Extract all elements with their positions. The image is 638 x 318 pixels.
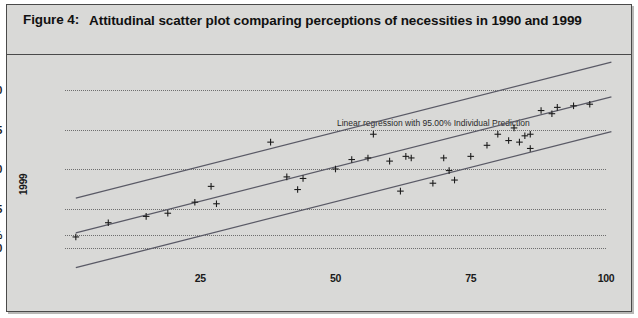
y-tick-label: 50 bbox=[0, 163, 2, 175]
scatter-point bbox=[397, 188, 404, 195]
x-tick-label: 50 bbox=[330, 272, 341, 284]
scatter-point bbox=[527, 145, 534, 152]
scatter-point bbox=[511, 125, 518, 132]
scatter-point bbox=[365, 155, 372, 162]
scatter-point bbox=[538, 107, 545, 114]
scatter-point bbox=[294, 186, 301, 193]
figure-title-wrap: Figure 4: Attitudinal scatter plot compa… bbox=[23, 12, 621, 30]
y-tick-label: 0 bbox=[0, 242, 2, 254]
prediction-lower-line bbox=[76, 132, 612, 268]
chart-plot-region: Linear regression with 95.00% Individual… bbox=[7, 55, 633, 312]
x-tick-label: 25 bbox=[195, 272, 206, 284]
scatter-point bbox=[403, 153, 410, 160]
scatter-point bbox=[451, 177, 458, 184]
scatter-svg bbox=[65, 90, 606, 248]
scatter-point bbox=[495, 131, 502, 138]
figure-title-text: Attitudinal scatter plot comparing perce… bbox=[89, 12, 582, 30]
scatter-point bbox=[527, 131, 534, 138]
scatter-point bbox=[192, 199, 199, 206]
scatter-point bbox=[484, 142, 491, 149]
x-tick-label: 100 bbox=[598, 272, 615, 284]
figure-number-label: Figure 4: bbox=[23, 12, 79, 27]
y-tick-label: 8% bbox=[0, 229, 2, 241]
scatter-point bbox=[386, 158, 393, 165]
scatter-point bbox=[522, 133, 529, 140]
scatter-point bbox=[570, 103, 577, 110]
y-tick-label: 75 bbox=[0, 124, 2, 136]
scatter-point bbox=[467, 153, 474, 160]
y-tick-label: 100 bbox=[0, 84, 2, 96]
scatter-point bbox=[208, 183, 215, 190]
regression-line bbox=[76, 97, 612, 233]
x-tick-label: 75 bbox=[465, 272, 476, 284]
y-tick-label: 25 bbox=[0, 203, 2, 215]
regression-fit-line bbox=[76, 97, 612, 233]
y-axis-label: 1999 bbox=[18, 174, 29, 195]
scatter-point bbox=[440, 155, 447, 162]
scatter-point bbox=[516, 139, 523, 146]
scatter-point bbox=[430, 180, 437, 187]
scatter-point bbox=[267, 139, 274, 146]
chart-canvas: 08%255075100 255075100 bbox=[65, 90, 606, 248]
scatter-point bbox=[370, 131, 377, 138]
scatter-point bbox=[505, 137, 512, 144]
figure-title-band: Figure 4: Attitudinal scatter plot compa… bbox=[7, 5, 631, 55]
gridline-y bbox=[65, 248, 606, 249]
figure-panel: Figure 4: Attitudinal scatter plot compa… bbox=[6, 4, 632, 312]
scatter-point bbox=[408, 155, 415, 162]
scatter-point bbox=[73, 234, 80, 241]
scatter-point bbox=[164, 210, 171, 217]
scatter-point bbox=[213, 200, 220, 207]
prediction-upper-line bbox=[76, 62, 612, 198]
